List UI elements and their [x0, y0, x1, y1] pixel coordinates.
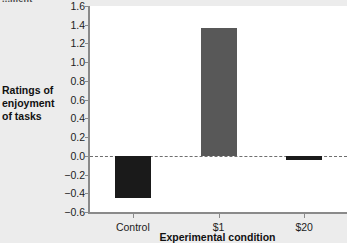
y-tick-label: 0.0	[70, 150, 90, 162]
y-tick-label: 0.6	[70, 94, 90, 106]
y-tick-label: 0.2	[70, 131, 90, 143]
y-tick-label: 1.0	[70, 56, 90, 68]
bar-1[interactable]	[201, 28, 237, 155]
bar-20[interactable]	[286, 156, 322, 161]
x-tick-mark	[304, 212, 305, 218]
y-tick-label: −0.4	[64, 187, 90, 199]
y-tick-label: −0.6	[64, 206, 90, 218]
bar-control[interactable]	[115, 156, 151, 198]
x-tick-mark	[219, 212, 220, 218]
x-tick-mark	[133, 212, 134, 218]
y-tick-label: 1.4	[70, 19, 90, 31]
y-tick-label: −0.2	[64, 169, 90, 181]
y-tick-label: 1.2	[70, 37, 90, 49]
y-tick-label: 0.4	[70, 112, 90, 124]
x-axis-title: Experimental condition	[88, 231, 347, 243]
plot-area: 1.61.41.21.00.80.60.40.20.0−0.2−0.4−0.6C…	[88, 6, 347, 214]
y-tick-label: 1.6	[70, 0, 90, 12]
y-tick-label: 0.8	[70, 75, 90, 87]
cropped-caption-text: ...ment	[2, 0, 32, 4]
